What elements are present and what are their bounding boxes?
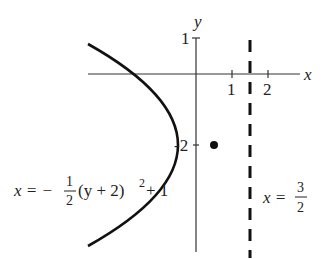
directrix-lhs: x =: [262, 188, 286, 207]
eq-frac-num: 1: [66, 174, 73, 189]
directrix-equation: x = 3 2: [262, 180, 307, 215]
directrix-frac-num: 3: [297, 180, 304, 195]
parabola-equation: x = − 1 2 (y + 2) 2 + 1: [13, 174, 168, 208]
eq-lhs: x = −: [13, 181, 53, 200]
svg-text:x = −: x = −: [13, 181, 53, 200]
eq-frac-den: 2: [66, 193, 73, 208]
y-tick-label-neg2: -2: [174, 136, 188, 155]
focus-point: [210, 141, 218, 149]
x-tick-label-2: 2: [263, 80, 272, 99]
x-axis-label: x: [303, 65, 312, 84]
eq-exponent: 2: [139, 176, 145, 190]
y-axis-label: y: [192, 12, 202, 31]
svg-text:x =: x =: [262, 188, 286, 207]
eq-tail: + 1: [146, 181, 168, 200]
eq-rhs: (y + 2): [78, 181, 124, 200]
x-tick-label-1: 1: [227, 80, 236, 99]
y-tick-label-1: 1: [181, 29, 190, 48]
directrix-frac-den: 2: [297, 200, 304, 215]
parabola-diagram: y x 1 -2 1 2 x = − 1 2 (y + 2) 2 + 1 x =…: [0, 0, 324, 259]
svg-text:(y + 2): (y + 2): [78, 181, 124, 200]
